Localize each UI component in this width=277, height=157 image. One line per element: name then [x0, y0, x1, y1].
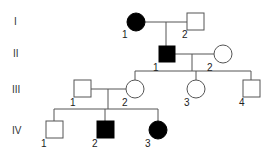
individual-ii-2-female	[214, 45, 232, 63]
individual-iv-2-affected-male	[97, 121, 114, 138]
generation-label-i: I	[14, 16, 17, 27]
individual-iv-3-affected-female	[149, 121, 167, 139]
individual-number: 2	[92, 138, 98, 149]
individual-number: 1	[122, 29, 128, 40]
generation-label-iv: IV	[12, 125, 22, 136]
individual-iii-4-male	[243, 80, 260, 97]
generation-label-iii: III	[12, 84, 20, 95]
individual-ii-1-affected-male	[159, 46, 175, 62]
individual-number: 2	[182, 29, 188, 40]
individual-number: 1	[41, 138, 47, 149]
individual-number: 2	[122, 97, 128, 108]
individual-number: 4	[239, 97, 245, 108]
individual-number: 2	[207, 62, 213, 73]
individual-iii-1-male	[74, 80, 91, 97]
individual-number: 1	[153, 62, 159, 73]
individual-number: 3	[184, 97, 190, 108]
pedigree-chart: I II III IV 1 2 1 2 1 2 3 4 1 2	[0, 0, 277, 157]
individual-i-2-male	[187, 13, 204, 30]
individual-iii-2-female	[126, 80, 144, 98]
generation-label-ii: II	[13, 48, 19, 59]
individual-iv-1-male	[46, 121, 63, 138]
individual-i-1-affected-female	[127, 13, 145, 31]
individual-iii-3-female	[187, 80, 205, 98]
individual-number: 1	[70, 97, 76, 108]
individual-number: 3	[145, 138, 151, 149]
